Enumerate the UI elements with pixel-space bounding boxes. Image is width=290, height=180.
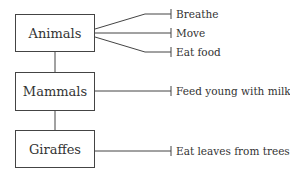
node-mammals: Mammals xyxy=(15,72,95,111)
property-eat-food: Eat food xyxy=(176,46,221,58)
property-breathe: Breathe xyxy=(176,8,218,20)
node-animals: Animals xyxy=(15,14,95,52)
classification-diagram: Animals Mammals Giraffes Breathe Move Ea… xyxy=(0,0,290,180)
node-label: Giraffes xyxy=(29,142,81,157)
node-giraffes: Giraffes xyxy=(15,130,95,168)
node-label: Mammals xyxy=(23,84,87,99)
node-label: Animals xyxy=(29,26,82,41)
property-eat-leaves: Eat leaves from trees xyxy=(176,145,290,157)
property-move: Move xyxy=(176,27,205,39)
property-feed-young: Feed young with milk xyxy=(176,85,290,97)
